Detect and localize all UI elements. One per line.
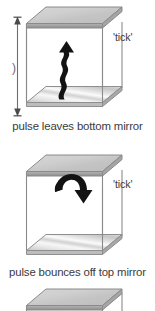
- panel-caption-1: pulse leaves bottom mirror: [0, 120, 155, 133]
- top-mirror-2: [27, 155, 123, 176]
- light-pulse-bounce-arrow-2: [55, 174, 93, 204]
- top-mirror-3: [27, 289, 123, 310]
- light-clock-box-2: [0, 148, 155, 268]
- top-mirror-1: [27, 7, 123, 28]
- panel-pulse-bounces-top: 'tick' pulse bounces off top mirror: [0, 148, 155, 287]
- tick-label-1: 'tick': [113, 31, 132, 43]
- panel-third-cropped: [0, 287, 155, 311]
- bottom-mirror-2: [27, 235, 123, 255]
- box-diagram-1: ): [0, 0, 155, 120]
- bottom-mirror-1: [27, 87, 123, 107]
- dimension-label-1: ): [12, 61, 16, 75]
- light-clock-figure: ): [0, 0, 155, 311]
- light-clock-box-1: ): [0, 0, 155, 120]
- tick-label-2: 'tick': [113, 178, 132, 190]
- box-diagram-2: [0, 148, 155, 268]
- box-diagram-3: [0, 287, 155, 311]
- panel-caption-2: pulse bounces off top mirror: [0, 266, 155, 279]
- panel-pulse-leaves-bottom: ): [0, 0, 155, 137]
